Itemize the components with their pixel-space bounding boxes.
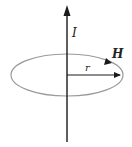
current-label: I (71, 26, 77, 40)
radius-label: r (85, 62, 91, 73)
current-arrow-icon (64, 5, 71, 16)
field-label: H (111, 47, 124, 61)
diagram-canvas: I H r (0, 0, 132, 147)
